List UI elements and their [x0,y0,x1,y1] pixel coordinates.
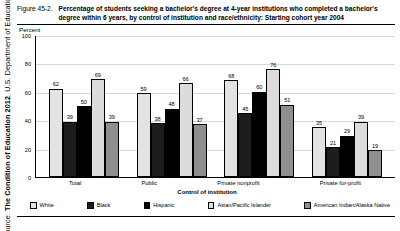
bar[interactable]: 51 [280,105,294,177]
bar-value-label: 37 [197,117,203,124]
figure-container: Figure 45-2. Percentage of students seek… [14,0,400,231]
y-axis-tick-labels: 020406080100 [19,36,33,178]
plot-canvas: 6239506939593848663768456076513521293919 [35,36,395,178]
bar-groups: 6239506939593848663768456076513521293919 [36,36,395,177]
bar-value-label: 45 [242,106,248,113]
figure-title: Percentage of students seeking a bachelo… [59,4,395,22]
figure-number: Figure 45-2. [17,4,59,13]
bar-value-label: 59 [141,86,147,93]
legend-item[interactable]: Black [87,202,110,209]
source-note-suffix: , U.S. Department of Education [3,0,12,95]
bar-value-label: 39 [67,114,73,121]
y-axis-tick-20: 20 [25,147,31,153]
bar[interactable]: 66 [179,83,193,177]
bar[interactable]: 38 [151,123,165,177]
x-axis-label: Private for-profit [320,180,361,187]
bar[interactable]: 39 [354,122,368,177]
y-axis-tick-40: 40 [25,118,31,124]
bar[interactable]: 76 [266,69,280,177]
bar[interactable]: 50 [77,106,91,177]
bar[interactable]: 35 [312,127,326,177]
bar-value-label: 62 [53,81,59,88]
bar-group: 3521293919 [312,36,382,177]
bar-group: 6845607651 [224,36,294,177]
y-axis-tick-0: 0 [28,175,31,181]
bar-value-label: 35 [316,120,322,127]
legend-label: White [40,202,54,209]
bar[interactable]: 19 [368,150,382,177]
bar-group: 6239506939 [49,36,119,177]
source-note: Source: The Condition of Education 2012,… [0,0,14,231]
bar-value-label: 51 [284,97,290,104]
bar[interactable]: 21 [326,147,340,177]
y-axis-tick-80: 80 [25,61,31,67]
x-axis-label: Total [69,180,81,187]
source-note-prefix: Source: [3,210,12,231]
bar-value-label: 66 [183,76,189,83]
legend-swatch-icon [30,202,37,209]
legend-swatch-icon [304,202,311,209]
source-note-text: Source: The Condition of Education 2012,… [3,0,12,231]
bar[interactable]: 59 [137,93,151,177]
legend-item[interactable]: Asian/Pacific Islander [208,202,271,209]
bar-value-label: 60 [256,84,262,91]
legend-label: Black [97,202,111,209]
bar[interactable]: 37 [193,124,207,177]
legend-swatch-icon [208,202,215,209]
bar[interactable]: 68 [224,80,238,177]
bar[interactable]: 69 [91,79,105,177]
bar-group: 5938486637 [137,36,207,177]
bar-value-label: 50 [81,99,87,106]
legend-label: American Indian/Alaska Native [314,202,390,209]
bar[interactable]: 39 [105,122,119,177]
legend-swatch-icon [87,202,94,209]
bar[interactable]: 48 [165,109,179,177]
bar-value-label: 69 [95,72,101,79]
y-axis-tick-60: 60 [25,90,31,96]
bar[interactable]: 62 [49,89,63,177]
figure-header: Figure 45-2. Percentage of students seek… [17,4,395,22]
bar-value-label: 76 [270,62,276,69]
bar[interactable]: 45 [238,113,252,177]
bar-value-label: 48 [169,101,175,108]
bar-value-label: 21 [330,140,336,147]
legend-label: Hispanic [153,202,174,209]
bar-value-label: 39 [109,114,115,121]
bar-value-label: 39 [358,114,364,121]
source-note-emphasis: The Condition of Education 2012 [3,95,12,210]
plot-area: 020406080100 623950693959384866376845607… [19,36,395,178]
bar-value-label: 68 [228,73,234,80]
x-axis-label: Private nonprofit [217,180,259,187]
header-divider [17,24,395,25]
figure-page: Source: The Condition of Education 2012,… [0,0,400,231]
bar-value-label: 38 [155,116,161,123]
x-axis-category-labels: TotalPublicPrivate nonprofitPrivate for-… [35,180,395,187]
bar[interactable]: 60 [252,92,266,177]
y-axis-tick-100: 100 [22,33,31,39]
x-axis-label: Public [141,180,157,187]
legend-item[interactable]: American Indian/Alaska Native [304,202,390,209]
legend-item[interactable]: White [30,202,54,209]
legend-item[interactable]: Hispanic [144,202,175,209]
bar[interactable]: 39 [63,122,77,177]
bar-value-label: 29 [344,128,350,135]
legend-swatch-icon [144,202,151,209]
x-axis-title: Control of institution [14,189,400,196]
chart-legend: WhiteBlackHispanicAsian/Pacific Islander… [30,202,390,209]
bar[interactable]: 29 [340,136,354,177]
bar-value-label: 19 [372,143,378,150]
footer-divider [17,216,395,217]
legend-label: Asian/Pacific Islander [217,202,270,209]
